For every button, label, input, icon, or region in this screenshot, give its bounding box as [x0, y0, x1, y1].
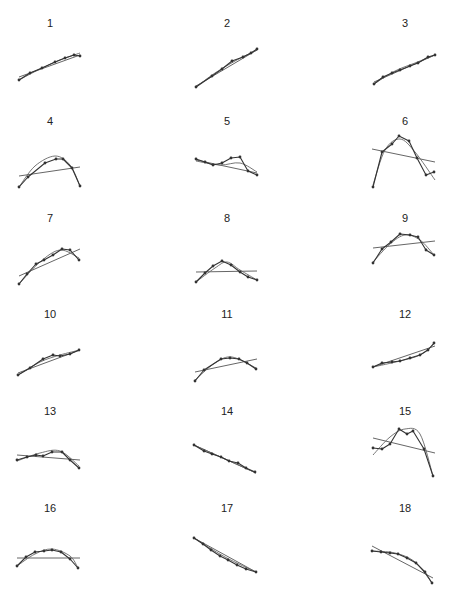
- data-point-marker: [26, 273, 29, 276]
- data-point-marker: [381, 151, 384, 154]
- data-point-marker: [52, 254, 55, 257]
- data-point-marker: [71, 167, 74, 170]
- data-point-marker: [221, 162, 224, 165]
- data-point-marker: [202, 543, 205, 546]
- data-point-marker: [406, 557, 409, 560]
- data-point-marker: [59, 355, 62, 358]
- data-polyline: [19, 159, 80, 187]
- data-point-marker: [391, 143, 394, 146]
- data-point-marker: [406, 433, 409, 436]
- panel-label: 5: [224, 115, 230, 127]
- data-point-marker: [398, 135, 401, 138]
- panel-label: 6: [402, 115, 408, 127]
- panel-label: 1: [47, 17, 53, 29]
- data-point-marker: [399, 360, 402, 363]
- data-point-marker: [17, 374, 20, 377]
- data-point-marker: [427, 349, 430, 352]
- data-point-marker: [16, 459, 19, 462]
- data-point-marker: [42, 358, 45, 361]
- data-point-marker: [221, 68, 224, 71]
- data-point-marker: [371, 550, 374, 553]
- data-point-marker: [212, 164, 215, 167]
- panel-label: 8: [224, 212, 230, 224]
- data-point-marker: [54, 61, 57, 64]
- data-point-marker: [204, 272, 207, 275]
- data-point-marker: [399, 233, 402, 236]
- data-point-marker: [372, 447, 375, 450]
- data-point-marker: [211, 75, 214, 78]
- data-point-marker: [423, 448, 426, 451]
- data-point-marker: [43, 259, 46, 262]
- data-point-marker: [247, 170, 250, 173]
- panel-2: 2: [195, 17, 259, 88]
- panel-5: 5: [195, 115, 259, 176]
- data-point-marker: [51, 451, 54, 454]
- data-point-marker: [52, 354, 55, 357]
- panel-12: 12: [372, 308, 436, 368]
- panel-7: 7: [18, 212, 81, 285]
- data-point-marker: [29, 72, 32, 75]
- data-point-marker: [239, 156, 242, 159]
- data-point-marker: [195, 158, 198, 161]
- data-point-marker: [391, 72, 394, 75]
- data-point-marker: [195, 281, 198, 284]
- panel-18: 18: [371, 502, 434, 584]
- panel-17: 17: [193, 502, 258, 573]
- data-point-marker: [417, 62, 420, 65]
- data-point-marker: [194, 380, 197, 383]
- data-point-marker: [227, 559, 230, 562]
- data-point-marker: [433, 254, 436, 257]
- data-point-marker: [27, 176, 30, 179]
- data-point-marker: [245, 568, 248, 571]
- data-point-marker: [391, 361, 394, 364]
- data-point-marker: [228, 460, 231, 463]
- data-point-marker: [245, 467, 248, 470]
- data-point-marker: [231, 60, 234, 63]
- data-point-marker: [26, 456, 29, 459]
- data-point-marker: [412, 430, 415, 433]
- data-point-marker: [69, 558, 72, 561]
- panel-label: 9: [402, 212, 408, 224]
- panel-3: 3: [373, 17, 437, 85]
- data-point-marker: [432, 475, 435, 478]
- data-point-marker: [372, 366, 375, 369]
- data-point-marker: [35, 454, 38, 457]
- panel-6: 6: [372, 115, 436, 188]
- data-point-marker: [433, 342, 436, 345]
- panel-8: 8: [195, 212, 259, 283]
- data-point-marker: [425, 174, 428, 177]
- data-point-marker: [256, 279, 259, 282]
- data-point-marker: [408, 140, 411, 143]
- data-point-marker: [255, 571, 258, 574]
- data-point-marker: [73, 54, 76, 57]
- data-point-marker: [409, 357, 412, 360]
- panel-1: 1: [18, 17, 82, 81]
- data-point-marker: [409, 234, 412, 237]
- curve-fit-line: [195, 357, 256, 380]
- data-point-marker: [211, 453, 214, 456]
- data-point-marker: [415, 562, 418, 565]
- data-point-marker: [220, 456, 223, 459]
- data-point-marker: [204, 161, 207, 164]
- data-point-marker: [399, 69, 402, 72]
- data-point-marker: [390, 241, 393, 244]
- panel-11: 11: [194, 308, 258, 382]
- data-point-marker: [41, 67, 44, 70]
- data-point-marker: [434, 54, 437, 57]
- panel-label: 16: [44, 502, 56, 514]
- data-point-marker: [372, 186, 375, 189]
- curve-fit-line: [19, 250, 79, 284]
- data-point-marker: [433, 171, 436, 174]
- data-point-marker: [203, 450, 206, 453]
- data-point-marker: [43, 550, 46, 553]
- data-point-marker: [35, 263, 38, 266]
- data-point-marker: [416, 157, 419, 160]
- data-point-marker: [431, 582, 434, 585]
- data-point-marker: [398, 428, 401, 431]
- data-point-marker: [255, 368, 258, 371]
- data-point-marker: [372, 262, 375, 265]
- data-point-marker: [236, 564, 239, 567]
- linear-fit-line: [373, 241, 435, 248]
- data-point-marker: [212, 265, 215, 268]
- panel-grid-figure: 123456789101112131415161718: [0, 0, 450, 593]
